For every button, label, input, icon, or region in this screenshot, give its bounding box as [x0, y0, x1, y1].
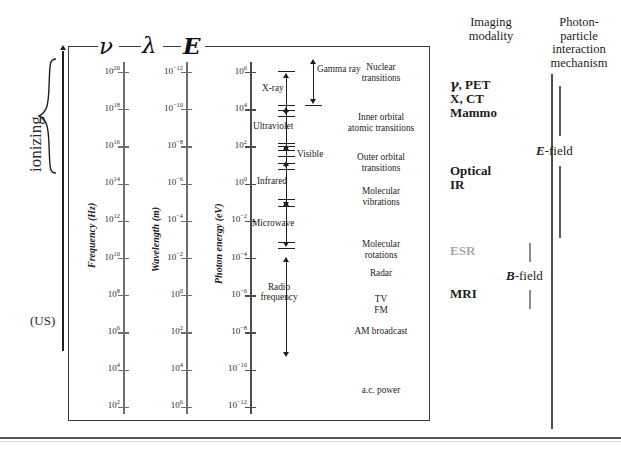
- frequency-axis-spine: [123, 62, 125, 414]
- photon-energy-tick-label-1: 104: [207, 103, 247, 113]
- mechanism-line-0: Outer orbital: [336, 152, 426, 163]
- footer-rule: [0, 437, 621, 439]
- top-border-seg-4: [205, 46, 430, 47]
- photon-energy-tick-label-2: 102: [207, 140, 247, 150]
- x-ray-cap-top: [278, 71, 295, 72]
- wavelength-tick-label-8: 104: [143, 363, 183, 373]
- mechanism-label-a-c-power: a.c. power: [336, 385, 426, 396]
- ionizing-arrowhead-icon: [60, 45, 66, 50]
- wavelength-tick-label-9: 106: [143, 400, 183, 410]
- mechanism-line-0: Nuclear: [336, 62, 426, 73]
- mechanism-line-0: Molecular: [336, 239, 426, 250]
- e-field-suffix: -field: [545, 143, 573, 158]
- us-label: (US): [30, 313, 55, 329]
- xray-uv-boundary: [278, 110, 295, 111]
- energy-symbol: E: [183, 32, 201, 59]
- microwave-rf-boundary: [278, 242, 295, 243]
- photon-energy-tick-label-7: 10−8: [207, 326, 247, 336]
- microwave-cap-bottom: [278, 248, 295, 249]
- photon-particle-header-line-3: interaction: [534, 43, 621, 57]
- imaging-modality-header-line-2: modality: [448, 30, 534, 44]
- mechanism-line-1: FM: [336, 305, 426, 316]
- figure-root: ν λ E ionizing (US) Frequency (Hz) 10201…: [0, 0, 621, 456]
- wavelength-tick-label-5: 10−2: [143, 252, 183, 262]
- modality-optical: Optical: [450, 164, 491, 178]
- mechanism-line-0: Inner orbital: [336, 112, 426, 123]
- mechanism-label-inner-orbital-atomic-transitions: Inner orbitalatomic transitions: [336, 112, 426, 133]
- b-field-label: B-field: [506, 268, 543, 284]
- modality-mri: MRI: [450, 287, 477, 301]
- wavelength-tick-label-2: 10−8: [143, 140, 183, 150]
- photon-energy-tick-label-8: 10−10: [207, 363, 247, 373]
- mechanism-label-nuclear-transitions: Nucleartransitions: [336, 62, 426, 83]
- radio-arrowhead-down-icon: [283, 352, 289, 357]
- b-field-segment-lower: [529, 290, 531, 309]
- wavelength-axis-spine: [186, 62, 188, 414]
- b-field-suffix: -field: [515, 268, 543, 283]
- modality-gamma-pet: γ, PET: [450, 78, 490, 92]
- photon-energy-tick-label-9: 10−12: [207, 400, 247, 410]
- band-label-microwave: Microwave: [252, 218, 294, 228]
- mechanism-line-1: atomic transitions: [336, 123, 426, 134]
- e-field-symbol: E: [536, 143, 545, 158]
- band-label-ultraviolet: Ultraviolet: [253, 121, 293, 131]
- gamma-ray-lower-cap: [305, 105, 322, 106]
- frequency-tick-label-2: 1016: [80, 140, 120, 150]
- e-field-label: E-field: [536, 143, 573, 159]
- wavelength-tick-label-6: 100: [143, 289, 183, 299]
- photon-energy-tick-label-3: 100: [207, 177, 247, 187]
- wavelength-tick-label-4: 10−4: [143, 214, 183, 224]
- imaging-modality-header: Imaging modality: [448, 16, 534, 43]
- band-label-visible: Visible: [297, 149, 323, 159]
- e-field-segment-upper: [559, 86, 561, 136]
- gamma-glyph: γ: [450, 77, 459, 92]
- band-label-x-ray: X-ray: [262, 83, 284, 93]
- frequency-tick-label-5: 1010: [80, 252, 120, 262]
- gamma-ray-arrowhead-up-icon: [310, 59, 316, 64]
- x-ray-arrowhead-up-icon: [283, 73, 289, 78]
- band-label-radio-frequency: Radiofrequency: [253, 282, 305, 302]
- gamma-ray-arrow: [313, 64, 314, 102]
- wavelength-tick-label-1: 10−10: [143, 103, 183, 113]
- ionizing-label: ionizing: [26, 116, 46, 172]
- mechanism-line-0: Radar: [336, 268, 426, 279]
- gamma-ray-arrowhead-down-icon: [310, 99, 316, 104]
- imaging-modality-header-line-1: Imaging: [448, 16, 534, 30]
- photon-particle-divider: [551, 74, 553, 429]
- band-label-radio-line-1: Radio: [253, 282, 305, 292]
- visible-cap-a: [278, 150, 295, 151]
- visible-cap-c: [278, 163, 295, 164]
- photon-particle-header-line-2: particle: [534, 30, 621, 44]
- frequency-tick-label-0: 1020: [80, 66, 120, 76]
- band-label-radio-line-2: frequency: [253, 292, 305, 302]
- photon-energy-tick-label-6: 10−6: [207, 289, 247, 299]
- modality-gamma-pet-rest: , PET: [459, 77, 491, 92]
- mechanism-line-1: transitions: [336, 73, 426, 84]
- frequency-tick-label-6: 108: [80, 289, 120, 299]
- mechanism-label-outer-orbital-transitions: Outer orbitaltransitions: [336, 152, 426, 173]
- modality-x-ct: X, CT: [450, 92, 484, 106]
- band-label-infrared: Infrared: [257, 176, 287, 186]
- modality-esr: ESR: [450, 244, 475, 258]
- mechanism-line-0: Molecular: [336, 186, 426, 197]
- wavelength-symbol: λ: [142, 32, 157, 58]
- b-field-symbol: B: [506, 268, 515, 283]
- mechanism-line-0: TV: [336, 294, 426, 305]
- mechanism-line-0: AM broadcast: [336, 326, 426, 337]
- frequency-tick-label-9: 102: [80, 400, 120, 410]
- photon-particle-header-line-4: mechanism: [534, 57, 621, 71]
- wavelength-tick-label-3: 10−6: [143, 177, 183, 187]
- mechanism-label-molecular-rotations: Molecularrotations: [336, 239, 426, 260]
- frequency-tick-label-4: 1012: [80, 214, 120, 224]
- visible-cap-top: [278, 143, 295, 144]
- photon-energy-tick-label-5: 10−4: [207, 252, 247, 262]
- mechanism-label-am-broadcast: AM broadcast: [336, 326, 426, 337]
- mechanism-line-1: rotations: [336, 250, 426, 261]
- uv-visible-boundary: [278, 146, 295, 147]
- footer-rule-shadow: [0, 441, 621, 442]
- radio-arrow: [286, 262, 287, 352]
- wavelength-tick-label-0: 10−12: [143, 66, 183, 76]
- photon-energy-axis-spine: [250, 62, 252, 414]
- modality-ir: IR: [450, 178, 464, 192]
- ionizing-axis-line: [62, 51, 64, 351]
